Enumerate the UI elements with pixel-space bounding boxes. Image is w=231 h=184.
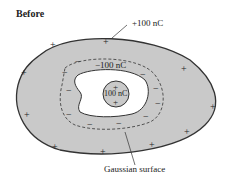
svg-text:−: − [87, 119, 93, 130]
svg-text:+: + [100, 146, 106, 157]
svg-text:+: + [103, 36, 109, 47]
inner-surface-charge-label: −100 nC [95, 60, 126, 70]
svg-text:−: − [66, 85, 72, 96]
outer-charge-leader [112, 25, 127, 38]
svg-text:−: − [75, 56, 81, 67]
center-charge-label: 100 nC [104, 89, 127, 98]
svg-text:+: + [184, 126, 190, 137]
svg-text:−: − [66, 109, 72, 120]
svg-text:+: + [149, 139, 155, 150]
svg-text:+: + [113, 97, 118, 107]
svg-text:−: − [62, 67, 68, 78]
svg-text:−: − [140, 69, 146, 80]
svg-text:+: + [50, 39, 56, 50]
svg-text:−: − [155, 98, 161, 109]
svg-text:+: + [52, 141, 58, 152]
svg-text:−: − [153, 83, 159, 94]
gaussian-surface-label: Gaussian surface [104, 164, 165, 174]
svg-text:+: + [24, 109, 30, 120]
outer-charge-label: +100 nC [132, 18, 163, 28]
svg-text:+: + [210, 101, 216, 112]
svg-text:+: + [181, 63, 187, 74]
svg-text:−: − [143, 111, 149, 122]
svg-text:+: + [21, 67, 27, 78]
svg-text:−: − [116, 118, 122, 129]
